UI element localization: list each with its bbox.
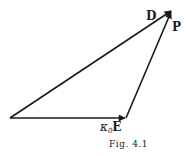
label-d: D: [146, 10, 156, 22]
e-letter: E: [112, 120, 121, 134]
vector-triangle-diagram: [0, 0, 187, 156]
vector-p: [126, 12, 171, 118]
label-kappa0-e: κ0E: [100, 121, 122, 135]
vector-d: [10, 11, 171, 118]
label-p: P: [172, 21, 181, 33]
figure-caption: Fig. 4.1: [0, 139, 187, 149]
kappa-symbol: κ: [100, 120, 108, 134]
